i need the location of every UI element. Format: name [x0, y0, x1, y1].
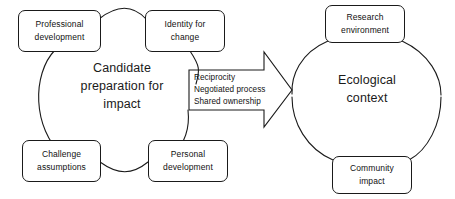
- node-identity-for-change[interactable]: Identity for change: [145, 10, 225, 52]
- node-label-line: Personal: [171, 148, 205, 161]
- hub-label-line: Candidate: [52, 60, 192, 78]
- connector-label-line: Negotiated process: [194, 84, 272, 96]
- connector-label-line: Reciprocity: [194, 72, 272, 84]
- node-professional-development[interactable]: Professional development: [18, 10, 101, 52]
- node-label-line: impact: [359, 175, 385, 188]
- node-label-line: development: [163, 161, 213, 174]
- node-label-line: change: [171, 31, 200, 44]
- node-label-line: Identity for: [165, 18, 206, 31]
- connector-arrow-label: Reciprocity Negotiated process Shared ow…: [194, 72, 272, 108]
- hub-label-line: impact: [52, 96, 192, 114]
- node-personal-development[interactable]: Personal development: [148, 140, 228, 182]
- node-label-line: assumptions: [37, 161, 86, 174]
- arc-challenge-to-personal: [100, 162, 148, 172]
- node-label-line: Community: [350, 162, 394, 175]
- diagram-canvas: Professional development Identity for ch…: [0, 0, 455, 199]
- hub-label-candidate-preparation: Candidate preparation for impact: [52, 60, 192, 113]
- node-challenge-assumptions[interactable]: Challenge assumptions: [22, 140, 101, 182]
- node-label-line: Professional: [36, 18, 84, 31]
- hub-label-line: preparation for: [52, 78, 192, 96]
- hub-label-line: Ecological: [311, 72, 423, 90]
- node-research-environment[interactable]: Research environment: [325, 5, 405, 43]
- arc-professional-to-identity: [99, 8, 146, 19]
- node-label-line: environment: [341, 24, 389, 37]
- node-label-line: Challenge: [42, 148, 81, 161]
- node-label-line: development: [35, 31, 85, 44]
- hub-label-line: context: [311, 90, 423, 108]
- connector-label-line: Shared ownership: [194, 96, 272, 108]
- node-label-line: Research: [346, 11, 383, 24]
- node-community-impact[interactable]: Community impact: [332, 156, 412, 194]
- hub-label-ecological-context: Ecological context: [311, 72, 423, 108]
